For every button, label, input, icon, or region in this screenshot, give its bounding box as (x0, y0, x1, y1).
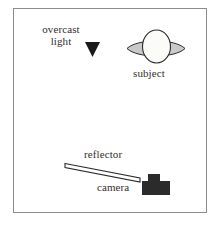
camera-label: camera (97, 182, 129, 194)
subject-label: subject (133, 68, 165, 80)
subject-head-shape (143, 30, 171, 63)
camera-body-shape (142, 174, 170, 195)
overcast-light-label-line2: light (36, 36, 86, 48)
overcast-light-label: overcast light (36, 24, 86, 47)
reflector-panel-shape (65, 164, 140, 183)
light-direction-arrow-icon (85, 42, 100, 57)
reflector-label: reflector (84, 149, 122, 161)
lighting-setup-diagram: overcast light subject reflector camera (0, 0, 219, 226)
overcast-light-label-line1: overcast (36, 24, 86, 36)
